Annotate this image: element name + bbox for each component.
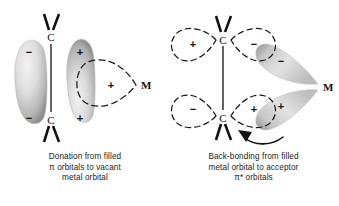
sign-metal-lobe: + xyxy=(108,79,114,91)
carbon-top-label: C xyxy=(47,31,54,43)
carbon-bottom-label: C xyxy=(47,114,54,126)
donation-caption-line-1: Donation from filled xyxy=(0,152,170,163)
substituent-bond-bottom-left xyxy=(216,124,221,140)
sign-top-right-lobe: − xyxy=(251,38,257,50)
metal-label: M xyxy=(141,79,152,91)
back-bonding-diagram: C C M + − − + − + xyxy=(168,0,339,152)
substituent-bond-top-right xyxy=(53,14,59,30)
substituent-bond-top-left xyxy=(44,14,49,30)
substituent-bond-top-right xyxy=(225,16,231,32)
orbital-interaction-figure: C C M − − + + + Donation from filled π o… xyxy=(0,0,339,206)
sign-right-lobe-bottom: + xyxy=(77,112,83,124)
substituent-bond-bottom-left xyxy=(44,126,49,142)
sign-metal-lobe-top: − xyxy=(278,55,284,67)
donation-caption: Donation from filled π orbitals to vacan… xyxy=(0,152,170,184)
sign-metal-lobe-bottom: + xyxy=(278,100,284,112)
donation-diagram: C C M − − + + + xyxy=(0,0,170,152)
metal-d-orbital-lobe-top xyxy=(256,44,318,84)
back-bonding-caption-line-1: Back-bonding from filled xyxy=(168,152,339,163)
back-bonding-caption-line-3: π* orbitals xyxy=(168,173,339,184)
sign-bottom-right-lobe: + xyxy=(251,103,257,115)
back-bonding-caption: Back-bonding from filled metal orbital t… xyxy=(168,152,339,184)
sign-top-left-lobe: + xyxy=(190,38,196,50)
donation-caption-line-3: metal orbital xyxy=(0,173,170,184)
back-bonding-caption-line-2: metal orbital to acceptor xyxy=(168,163,339,174)
sign-right-lobe-top: + xyxy=(77,46,83,58)
donation-panel: C C M − − + + + Donation from filled π o… xyxy=(0,0,170,206)
substituent-bond-top-left xyxy=(216,16,221,32)
sign-left-lobe-bottom: − xyxy=(26,112,32,124)
substituent-bond-bottom-right xyxy=(53,126,59,142)
electron-flow-arrowhead xyxy=(238,130,252,142)
carbon-top-label: C xyxy=(219,34,226,46)
metal-label: M xyxy=(323,81,334,93)
sign-left-lobe-top: − xyxy=(26,46,32,58)
electron-flow-arrow xyxy=(245,137,283,144)
back-bonding-panel: C C M + − − + − + Back-bonding from fill… xyxy=(168,0,339,206)
carbon-bottom-label: C xyxy=(219,112,226,124)
substituent-bond-bottom-right xyxy=(225,124,231,140)
sign-bottom-left-lobe: − xyxy=(190,103,196,115)
donation-caption-line-2: π orbitals to vacant xyxy=(0,163,170,174)
